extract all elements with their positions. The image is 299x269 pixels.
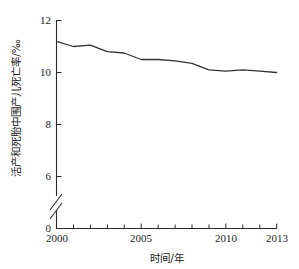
x-tick-label-2010: 2010 [215, 232, 238, 244]
y-tick-label-10: 10 [40, 66, 52, 78]
line-chart-plot: 12 10 8 6 0 2000 2005 2010 2013 时间/年 [0, 0, 299, 269]
y-axis-title: 活产和死胎中围产儿死亡率/‰ [10, 39, 22, 177]
x-tick-label-2000: 2000 [46, 232, 69, 244]
x-axis-title: 时间/年 [150, 252, 184, 264]
chart-figure: 12 10 8 6 0 2000 2005 2010 2013 时间/年 [0, 0, 299, 269]
x-tick-label-2005: 2005 [130, 232, 153, 244]
y-tick-label-6: 6 [46, 170, 52, 182]
y-axis-ticks [57, 21, 62, 177]
x-tick-label-2013: 2013 [266, 232, 289, 244]
x-axis-ticks [57, 224, 277, 229]
y-tick-label-8: 8 [46, 118, 52, 130]
y-tick-label-12: 12 [40, 14, 51, 26]
data-series-line [57, 41, 277, 72]
